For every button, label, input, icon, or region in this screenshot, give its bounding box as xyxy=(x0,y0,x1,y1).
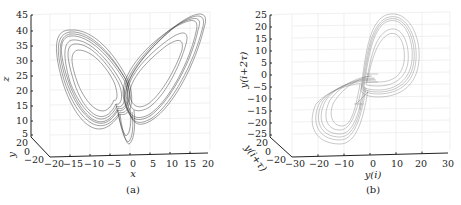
svg-text:−5: −5 xyxy=(253,81,267,92)
panel-b xyxy=(270,12,450,157)
panel-a-caption: (a) xyxy=(126,184,140,195)
svg-text:−15: −15 xyxy=(63,158,83,169)
svg-text:−20: −20 xyxy=(44,158,64,169)
svg-text:10: 10 xyxy=(391,158,403,169)
svg-text:−10: −10 xyxy=(247,93,267,104)
panel-a-x-ticks: −20 −15 −10 −5 0 5 10 15 20 xyxy=(44,158,214,169)
svg-text:−15: −15 xyxy=(247,105,267,116)
panel-a-x-label: x xyxy=(130,168,136,179)
svg-text:20: 20 xyxy=(415,158,427,169)
svg-text:15: 15 xyxy=(184,158,196,169)
panel-b-y-tick: −20 xyxy=(266,154,286,165)
svg-text:−5: −5 xyxy=(107,158,121,169)
panel-b-x-ticks: −30 −20 −10 0 10 20 30 xyxy=(285,158,454,169)
svg-text:5: 5 xyxy=(261,57,267,68)
svg-text:−10: −10 xyxy=(84,158,104,169)
panel-b-caption: (b) xyxy=(366,184,380,195)
panel-a-y-label: y xyxy=(6,152,17,159)
svg-text:10: 10 xyxy=(166,158,178,169)
panel-b-trajectory xyxy=(312,14,419,144)
svg-text:−10: −10 xyxy=(334,158,354,169)
svg-text:20: 20 xyxy=(202,158,214,169)
panel-b-x-label: y(i) xyxy=(364,169,382,180)
svg-text:0: 0 xyxy=(261,69,267,80)
svg-text:−20: −20 xyxy=(309,158,329,169)
svg-text:−20: −20 xyxy=(247,117,267,128)
panel-a-z-label: z xyxy=(0,76,11,83)
svg-text:15: 15 xyxy=(255,33,267,44)
svg-text:30: 30 xyxy=(442,158,454,169)
svg-text:20: 20 xyxy=(255,21,267,32)
svg-text:−30: −30 xyxy=(285,158,305,169)
panel-b-z-label: y(i+2τ) xyxy=(238,51,249,89)
svg-text:5: 5 xyxy=(150,158,156,169)
figure-labels: z 20 0 −20 y −20 −15 −10 −5 0 5 10 15 20… xyxy=(0,0,461,205)
svg-text:0: 0 xyxy=(370,158,376,169)
panel-b-z-ticks: 25 20 15 10 5 0 −5 −10 −15 −20 −25 xyxy=(247,9,267,139)
svg-text:25: 25 xyxy=(255,9,267,20)
svg-text:10: 10 xyxy=(255,45,267,56)
panel-a-y-tick: −20 xyxy=(24,154,44,165)
